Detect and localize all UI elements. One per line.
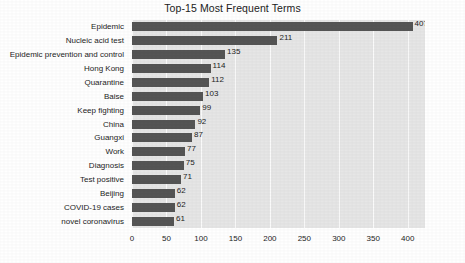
chart-title: Top-15 Most Frequent Terms [0, 2, 465, 14]
y-axis-label: Beijing [0, 189, 128, 198]
y-axis-label: Epidemic [0, 22, 128, 31]
bar-value-label: 103 [205, 89, 218, 98]
bar [132, 203, 175, 212]
bar [132, 189, 175, 198]
x-axis-tick-label: 300 [332, 234, 345, 243]
x-axis: 050100150200250300350400 [132, 228, 425, 248]
y-axis-label: novel coronavirus [0, 217, 128, 226]
y-axis-category-labels: EpidemicNucleic acid testEpidemic preven… [0, 20, 128, 228]
bar-value-label: 75 [186, 158, 195, 167]
x-axis-tick-label: 100 [194, 234, 207, 243]
gridline-200 [270, 20, 271, 228]
bar-value-label: 87 [194, 130, 203, 139]
y-axis-label: China [0, 120, 128, 129]
gridline-400 [408, 20, 409, 228]
y-axis-label: Keep fighting [0, 106, 128, 115]
x-axis-tick-label: 350 [367, 234, 380, 243]
bar-value-label: 99 [202, 103, 211, 112]
y-axis-label: Work [0, 147, 128, 156]
bar-value-label: 61 [176, 214, 185, 223]
bar [132, 106, 200, 115]
gridline-350 [373, 20, 374, 228]
bar [132, 50, 225, 59]
y-axis-label: Diagnosis [0, 161, 128, 170]
bar [132, 36, 277, 45]
bar [132, 64, 211, 73]
y-axis-label: Nucleic acid test [0, 36, 128, 45]
bar-value-label: 62 [177, 186, 186, 195]
y-axis-label: Baise [0, 92, 128, 101]
bar [132, 161, 184, 170]
bar [132, 147, 185, 156]
y-axis-label: Hong Kong [0, 64, 128, 73]
bar-value-label: 62 [177, 200, 186, 209]
y-axis-label: Quarantine [0, 78, 128, 87]
bar [132, 120, 195, 129]
y-axis-label: COVID-19 cases [0, 203, 128, 212]
x-axis-tick-label: 200 [263, 234, 276, 243]
bar-value-label: 71 [183, 172, 192, 181]
bar-value-label: 135 [227, 47, 240, 56]
bar [132, 175, 181, 184]
bar [132, 133, 192, 142]
bar-value-label: 92 [197, 117, 206, 126]
y-axis-label: Test positive [0, 175, 128, 184]
x-axis-tick-label: 50 [162, 234, 171, 243]
x-axis-tick-label: 150 [229, 234, 242, 243]
bar-value-label: 211 [279, 33, 292, 42]
x-axis-tick-label: 400 [401, 234, 414, 243]
bar [132, 92, 203, 101]
y-axis-label: Epidemic prevention and control [0, 50, 128, 59]
bar-value-label: 114 [213, 61, 226, 70]
y-axis-label: Guangxi [0, 133, 128, 142]
bar-value-label: 112 [211, 75, 224, 84]
plot-area: 407211135114112103999287777571626261 [132, 20, 425, 228]
x-axis-tick-label: 0 [130, 234, 134, 243]
bar [132, 78, 209, 87]
chart-figure: Top-15 Most Frequent Terms EpidemicNucle… [0, 0, 465, 263]
x-axis-tick-label: 250 [298, 234, 311, 243]
bar-value-label: 407 [415, 20, 425, 28]
gridline-300 [339, 20, 340, 228]
bar [132, 217, 174, 226]
gridline-250 [304, 20, 305, 228]
bar [132, 22, 413, 31]
bar-value-label: 77 [187, 144, 196, 153]
